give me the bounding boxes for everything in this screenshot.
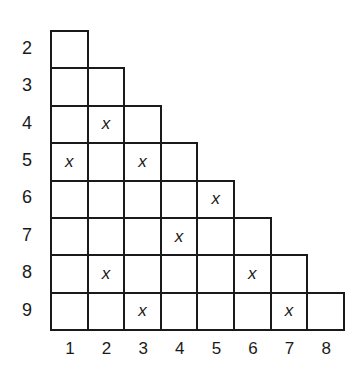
x-mark: x — [175, 227, 184, 247]
grid-cell: x — [160, 217, 199, 256]
grid-cell — [50, 254, 89, 293]
column-label: 2 — [89, 339, 125, 359]
triangular-grid-diagram: 234x5xx6x7x8xx9xx12345678 — [0, 0, 353, 379]
grid-cell: x — [270, 292, 309, 331]
grid-cell: x — [50, 142, 89, 181]
grid-cell — [160, 180, 199, 219]
grid-cell — [306, 292, 345, 331]
grid-cell — [50, 292, 89, 331]
row-label: 6 — [12, 187, 42, 208]
x-mark: x — [65, 152, 74, 172]
x-mark: x — [248, 264, 257, 284]
grid-cell: x — [87, 254, 126, 293]
grid-cell: x — [87, 105, 126, 144]
grid-cell — [196, 217, 235, 256]
grid-cell — [233, 292, 272, 331]
grid-cell — [50, 30, 89, 69]
grid-cell — [270, 254, 309, 293]
row-label: 4 — [12, 113, 42, 134]
row-label: 8 — [12, 262, 42, 283]
column-label: 5 — [198, 339, 234, 359]
grid-cell — [50, 217, 89, 256]
grid-cell: x — [233, 254, 272, 293]
row-label: 7 — [12, 225, 42, 246]
grid-cell — [233, 217, 272, 256]
x-mark: x — [138, 152, 147, 172]
column-label: 3 — [125, 339, 161, 359]
grid-cell — [196, 254, 235, 293]
grid-cell — [87, 180, 126, 219]
x-mark: x — [285, 301, 294, 321]
row-label: 9 — [12, 300, 42, 321]
x-mark: x — [102, 114, 111, 134]
grid-cell — [123, 105, 162, 144]
grid-cell — [123, 180, 162, 219]
x-mark: x — [138, 301, 147, 321]
grid-cell — [123, 254, 162, 293]
grid-cell — [123, 217, 162, 256]
x-mark: x — [211, 189, 220, 209]
grid-cell — [50, 105, 89, 144]
column-label: 4 — [162, 339, 198, 359]
grid-cell: x — [123, 292, 162, 331]
grid-cell — [160, 142, 199, 181]
x-mark: x — [102, 264, 111, 284]
grid-cell: x — [196, 180, 235, 219]
row-label: 2 — [12, 38, 42, 59]
grid-cell — [87, 142, 126, 181]
column-label: 7 — [272, 339, 308, 359]
grid-cell — [87, 67, 126, 106]
grid-cell — [196, 292, 235, 331]
column-label: 8 — [308, 339, 344, 359]
column-label: 6 — [235, 339, 271, 359]
row-label: 3 — [12, 75, 42, 96]
grid-cell — [87, 217, 126, 256]
grid-cell — [50, 180, 89, 219]
row-label: 5 — [12, 150, 42, 171]
column-label: 1 — [52, 339, 88, 359]
grid-cell: x — [123, 142, 162, 181]
grid-cell — [160, 292, 199, 331]
grid-cell — [160, 254, 199, 293]
grid-cell — [87, 292, 126, 331]
grid-cell — [50, 67, 89, 106]
